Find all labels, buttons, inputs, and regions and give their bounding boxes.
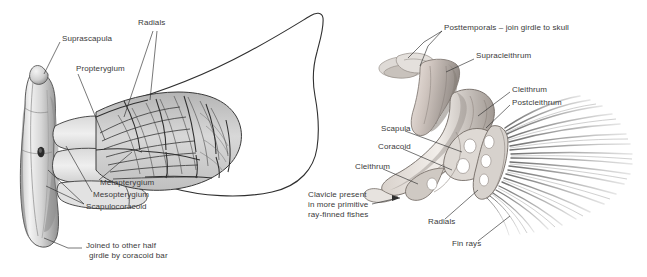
label-joined-line1: Joined to other half	[86, 241, 156, 251]
label-postcleithrum: Postcleithrum	[512, 98, 562, 108]
label-fin-rays: Fin rays	[452, 239, 481, 249]
right-fin-rays	[487, 96, 632, 235]
label-joined-line2: girdle by coracoid bar	[89, 251, 168, 261]
label-supracleithrum: Supracleithrum	[476, 51, 531, 61]
label-metapterygium: Metapterygium	[100, 178, 154, 188]
label-clavicle-line2: in more primitive	[308, 200, 368, 210]
figure-canvas: Suprascapula Radials Propterygium Metapt…	[0, 0, 647, 277]
label-cleithrum-top: Cleithrum	[512, 85, 547, 95]
label-scapulocoracoid: Scapulocoracoid	[86, 202, 147, 212]
label-cleithrum-left: Cleithrum	[355, 162, 390, 172]
label-mesopterygium: Mesopterygium	[93, 190, 149, 200]
label-suprascapula: Suprascapula	[62, 34, 112, 44]
label-clavicle-line1: Clavicle present	[308, 190, 367, 200]
label-posttemporals: Posttemporals – join girdle to skull	[444, 23, 569, 33]
label-propterygium: Propterygium	[76, 64, 125, 74]
label-radials-right: Radials	[428, 217, 455, 227]
label-clavicle-line3: ray-finned fishes	[308, 210, 368, 220]
label-coracoid: Coracoid	[378, 142, 411, 152]
left-fin-blade	[96, 92, 241, 190]
left-scapulocoracoid-bone	[20, 66, 59, 248]
label-scapula: Scapula	[381, 124, 411, 134]
label-radials-left: Radials	[138, 18, 165, 28]
